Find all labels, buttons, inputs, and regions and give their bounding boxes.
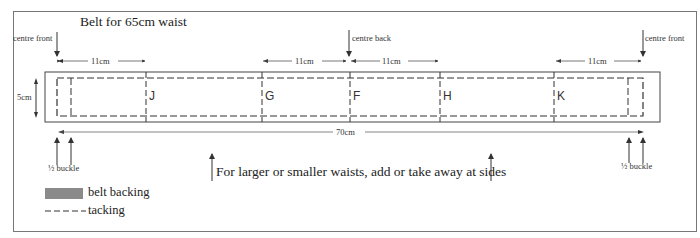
dimension-back-left: 11cm: [295, 56, 314, 66]
centre-back-label: centre back: [352, 33, 391, 43]
marker-f: F: [353, 89, 360, 103]
legend-tacking-label: tacking: [88, 203, 125, 218]
diagram-title: Belt for 65cm waist: [80, 14, 187, 30]
height-label: 5cm: [17, 92, 32, 102]
belt-backing-swatch: [45, 188, 83, 199]
legend-belt-backing-label: belt backing: [88, 185, 149, 200]
resize-note: For larger or smaller waists, add or tak…: [216, 164, 506, 180]
marker-h: H: [443, 89, 452, 103]
half-buckle-right-label: ½ buckle: [621, 161, 652, 171]
marker-j: J: [149, 89, 155, 103]
dimension-front-left: 11cm: [91, 56, 110, 66]
marker-g: G: [265, 89, 274, 103]
half-buckle-left-label: ½ buckle: [48, 163, 79, 173]
centre-front-right-label: centre front: [645, 33, 684, 43]
dimension-front-right: 11cm: [588, 56, 607, 66]
dimension-back-right: 11cm: [382, 56, 401, 66]
centre-front-left-label: centre front: [13, 33, 52, 43]
marker-k: K: [557, 89, 565, 103]
total-length-label: 70cm: [336, 127, 355, 137]
